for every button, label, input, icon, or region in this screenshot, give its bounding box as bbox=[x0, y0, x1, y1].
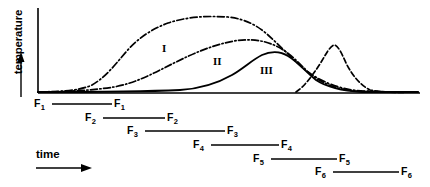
stage-label-2-left: F2 bbox=[85, 112, 96, 123]
stage-label-5-left: F5 bbox=[253, 153, 264, 164]
stage-label-6-left: F6 bbox=[315, 166, 326, 177]
stage-bars-svg bbox=[0, 0, 430, 187]
stage-label-1-left: F1 bbox=[34, 98, 45, 109]
stage-label-2-right: F2 bbox=[167, 112, 178, 123]
stage-label-6-right: F6 bbox=[401, 166, 412, 177]
stage-label-3-right: F3 bbox=[227, 125, 238, 136]
stage-label-4-left: F4 bbox=[193, 139, 204, 150]
figure-container: temperature time I II III F1 F1 F2 F2 F3… bbox=[0, 0, 430, 187]
stage-label-4-right: F4 bbox=[281, 139, 292, 150]
stage-label-3-left: F3 bbox=[127, 125, 138, 136]
stage-label-5-right: F5 bbox=[339, 153, 350, 164]
stage-label-1-right: F1 bbox=[114, 98, 125, 109]
